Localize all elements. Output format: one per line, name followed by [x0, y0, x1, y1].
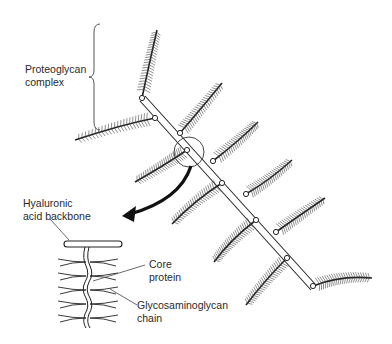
proteoglycan-diagram	[0, 0, 392, 344]
detail-core-protein	[83, 247, 92, 328]
gag-branches	[75, 30, 372, 305]
label-proteoglycan-complex: Proteoglycan complex	[25, 63, 86, 89]
label-glycosaminoglycan-chain: Glycosaminoglycan chain	[137, 299, 228, 325]
detail-gag-chains	[58, 259, 118, 322]
arrow-head	[122, 206, 136, 222]
label-core-protein: Core protein	[149, 258, 181, 284]
brace	[89, 24, 100, 130]
detail-hyaluronic-rod	[64, 241, 122, 247]
arrow-curve	[130, 166, 191, 214]
label-hyaluronic-acid-backbone: Hyaluronic acid backbone	[23, 197, 91, 223]
